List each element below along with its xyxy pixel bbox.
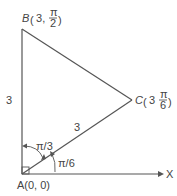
angle-cax-label: π/6 <box>58 157 75 169</box>
side-bc <box>22 29 132 100</box>
point-c-name: C <box>135 94 143 106</box>
paren-close: ) <box>168 96 172 108</box>
point-b-r: 3, <box>36 12 45 24</box>
point-b-name: B <box>22 12 29 24</box>
x-axis-arrowhead-icon <box>158 171 164 177</box>
arc-arrowhead-icon <box>22 144 27 149</box>
point-c-r: 3 <box>149 94 155 106</box>
x-axis-label: X <box>166 168 174 180</box>
side-ac <box>22 100 132 174</box>
angle-bac-label: π/3 <box>36 140 53 152</box>
paren-open: ( <box>143 96 147 108</box>
paren-close: ) <box>58 14 62 26</box>
side-ac-label: 3 <box>74 121 80 133</box>
polar-triangle-diagram: B ( 3, π 2 ) C ( 3 π 6 ) 3 3 π/3 π/6 X A… <box>0 0 177 196</box>
point-a-label: A(0, 0) <box>17 179 50 191</box>
point-c-theta-den: 6 <box>160 99 166 111</box>
angle-arc-cax <box>52 154 55 172</box>
side-ab-label: 3 <box>6 94 12 106</box>
point-b-theta-den: 2 <box>50 17 56 29</box>
paren-open: ( <box>30 14 34 26</box>
